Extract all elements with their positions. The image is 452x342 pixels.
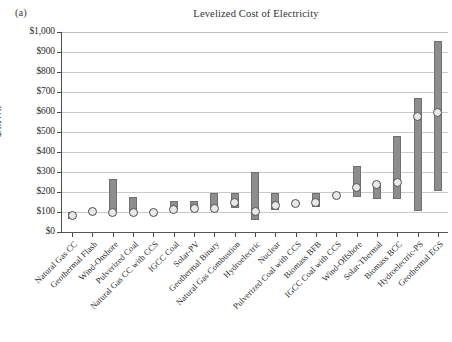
x-axis-tick [92, 233, 93, 237]
y-axis-tick-label: $1,000 [1, 26, 55, 36]
value-marker[interactable] [413, 112, 422, 121]
x-axis-tick [174, 233, 175, 237]
x-axis-tick [418, 233, 419, 237]
value-marker[interactable] [190, 204, 199, 213]
y-axis-tick [57, 52, 62, 53]
y-axis-tick-label: $200 [1, 186, 55, 196]
x-axis-tick [377, 233, 378, 237]
x-axis-tick [357, 233, 358, 237]
x-axis-tick [336, 233, 337, 237]
value-marker[interactable] [352, 183, 361, 192]
chart-title: Levelized Cost of Electricity [60, 8, 452, 19]
x-axis-tick [214, 233, 215, 237]
x-axis-tick [397, 233, 398, 237]
value-marker[interactable] [230, 198, 239, 207]
y-axis-tick [57, 92, 62, 93]
value-marker[interactable] [271, 201, 280, 210]
gridline [62, 92, 448, 93]
y-axis-tick-label: $500 [1, 126, 55, 136]
y-axis-tick [57, 232, 62, 233]
figure-levelized-cost-of-electricity: (a) Levelized Cost of Electricity $/MWh … [0, 0, 452, 342]
gridline [62, 52, 448, 53]
y-axis-tick [57, 192, 62, 193]
y-axis-tick [57, 172, 62, 173]
x-axis-tick [194, 233, 195, 237]
x-axis-tick [72, 233, 73, 237]
y-axis-tick-label: $400 [1, 146, 55, 156]
x-axis-tick [275, 233, 276, 237]
x-axis-tick [235, 233, 236, 237]
value-marker[interactable] [332, 191, 341, 200]
value-marker[interactable] [108, 208, 117, 217]
range-bar[interactable] [353, 166, 361, 197]
value-marker[interactable] [129, 208, 138, 217]
gridline [62, 72, 448, 73]
x-axis-tick [255, 233, 256, 237]
y-axis-tick-label: $100 [1, 206, 55, 216]
value-marker[interactable] [291, 199, 300, 208]
x-axis-tick [296, 233, 297, 237]
value-marker[interactable] [311, 198, 320, 207]
y-axis-tick-label: $0 [1, 226, 55, 236]
y-axis-tick [57, 112, 62, 113]
value-marker[interactable] [251, 207, 260, 216]
y-axis-tick [57, 152, 62, 153]
value-marker[interactable] [210, 204, 219, 213]
gridline [62, 152, 448, 153]
plot-area [62, 32, 448, 232]
y-axis-tick [57, 72, 62, 73]
x-axis-tick [438, 233, 439, 237]
y-axis-tick-labels: $0$100$200$300$400$500$600$700$800$900$1… [0, 32, 55, 232]
value-marker[interactable] [88, 207, 97, 216]
value-marker[interactable] [169, 205, 178, 214]
gridline [62, 112, 448, 113]
value-marker[interactable] [433, 108, 442, 117]
x-axis-tick [113, 233, 114, 237]
range-bar[interactable] [393, 136, 401, 199]
y-axis-tick [57, 32, 62, 33]
y-axis-tick-label: $900 [1, 46, 55, 56]
gridline [62, 32, 448, 33]
value-marker[interactable] [149, 208, 158, 217]
value-marker[interactable] [393, 178, 402, 187]
panel-label: (a) [15, 7, 27, 18]
x-axis-tick [316, 233, 317, 237]
y-axis-tick-label: $300 [1, 166, 55, 176]
value-marker[interactable] [372, 180, 381, 189]
x-axis-tick [133, 233, 134, 237]
x-axis-tick [153, 233, 154, 237]
y-axis-tick [57, 132, 62, 133]
value-marker[interactable] [68, 211, 77, 220]
y-axis-tick-label: $700 [1, 86, 55, 96]
y-axis-tick-label: $800 [1, 66, 55, 76]
y-axis-tick [57, 212, 62, 213]
gridline [62, 132, 448, 133]
y-axis-tick-label: $600 [1, 106, 55, 116]
